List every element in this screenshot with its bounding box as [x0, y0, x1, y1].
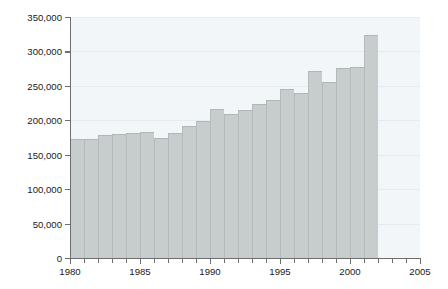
x-tick-label: 2000	[328, 266, 372, 277]
x-tick-minor	[364, 258, 365, 263]
x-tick-minor	[168, 258, 169, 263]
y-tick-label: 100,000	[4, 184, 62, 195]
x-tick-major	[420, 258, 421, 264]
x-tick-minor	[392, 258, 393, 263]
x-tick-minor	[112, 258, 113, 263]
x-tick-minor	[84, 258, 85, 263]
bar	[196, 121, 210, 258]
bar	[252, 104, 266, 258]
bar	[322, 82, 336, 258]
y-tick	[65, 189, 70, 190]
x-tick-major	[210, 258, 211, 264]
bar	[126, 133, 140, 258]
bar	[84, 139, 98, 258]
bar	[154, 138, 168, 259]
bar	[266, 100, 280, 258]
x-tick-minor	[308, 258, 309, 263]
x-tick-label: 1990	[188, 266, 232, 277]
bar	[294, 93, 308, 258]
y-tick-label: 0	[4, 253, 62, 264]
x-tick-minor	[182, 258, 183, 263]
y-tick	[65, 51, 70, 52]
bar	[70, 139, 84, 258]
x-tick-label: 1995	[258, 266, 302, 277]
bar	[238, 110, 252, 258]
bar	[336, 68, 350, 258]
y-tick-label: 150,000	[4, 149, 62, 160]
bar	[210, 109, 224, 258]
x-tick-label: 1985	[118, 266, 162, 277]
bar	[308, 71, 322, 258]
x-tick-minor	[322, 258, 323, 263]
bar	[168, 133, 182, 258]
x-tick-minor	[252, 258, 253, 263]
x-tick-major	[350, 258, 351, 264]
x-tick-minor	[378, 258, 379, 263]
bar	[280, 89, 294, 258]
x-tick-minor	[98, 258, 99, 263]
y-tick-label: 350,000	[4, 12, 62, 23]
x-tick-minor	[196, 258, 197, 263]
bar	[140, 132, 154, 258]
x-tick-major	[70, 258, 71, 264]
bar	[98, 135, 112, 258]
y-tick	[65, 224, 70, 225]
x-tick-minor	[336, 258, 337, 263]
bar	[364, 35, 378, 258]
bar	[350, 67, 364, 258]
bar-series	[70, 17, 420, 258]
x-tick-minor	[406, 258, 407, 263]
y-axis-line	[70, 17, 71, 258]
x-tick-minor	[294, 258, 295, 263]
x-tick-major	[280, 258, 281, 264]
x-tick-minor	[126, 258, 127, 263]
y-tick-label: 250,000	[4, 80, 62, 91]
x-tick-minor	[224, 258, 225, 263]
y-tick-label: 50,000	[4, 218, 62, 229]
y-tick	[65, 86, 70, 87]
y-tick-label: 300,000	[4, 46, 62, 57]
y-tick	[65, 120, 70, 121]
bar	[112, 134, 126, 258]
x-tick-label: 2005	[398, 266, 442, 277]
x-tick-minor	[154, 258, 155, 263]
x-tick-minor	[238, 258, 239, 263]
y-tick	[65, 17, 70, 18]
bar	[182, 126, 196, 258]
y-tick	[65, 155, 70, 156]
bar	[224, 114, 238, 258]
x-tick-minor	[266, 258, 267, 263]
y-tick-label: 200,000	[4, 115, 62, 126]
bar-chart-figure: BOD (kg per day) 050,000100,000150,00020…	[0, 0, 448, 289]
x-tick-label: 1980	[48, 266, 92, 277]
x-axis-line	[70, 258, 420, 259]
x-tick-major	[140, 258, 141, 264]
